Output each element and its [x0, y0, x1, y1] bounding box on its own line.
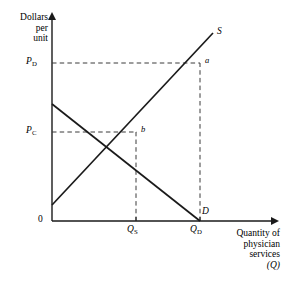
x-tick-sub-qd: D	[197, 228, 202, 235]
supply-curve	[52, 33, 213, 205]
x-tick-sub-qs: S	[134, 228, 138, 235]
x-axis-label-line-4: (Q)	[267, 260, 280, 270]
demand-curve-label: D	[202, 206, 209, 217]
demand-curve	[52, 104, 200, 221]
y-axis-label-line-1: Dollars	[20, 12, 48, 22]
y-tick-sub-pd: D	[32, 60, 37, 67]
supply-curve-label: S	[217, 26, 222, 37]
chart-figure: Dollarsperunit Quantity ofphysicianservi…	[0, 0, 285, 287]
y-tick-sub-pc: C	[32, 129, 37, 136]
y-tick-label-price-demanders: PD	[26, 56, 37, 67]
x-tick-label-quantity-supplied: QS	[127, 224, 138, 235]
x-tick-base-qs: Q	[127, 224, 134, 234]
point-b-label: b	[141, 125, 145, 135]
y-tick-base-pd: P	[26, 56, 32, 66]
x-axis-label-line-1: Quantity of	[236, 228, 280, 238]
x-axis-label-line-3: services	[249, 249, 280, 259]
y-tick-label-price-suppliers: PC	[26, 125, 36, 136]
y-tick-base-pc: P	[26, 125, 32, 135]
y-axis-label-line-3: unit	[33, 33, 48, 43]
y-axis-label: Dollarsperunit	[8, 12, 48, 44]
x-axis-label: Quantity ofphysicianservices(Q)	[196, 228, 280, 271]
x-tick-base-qd: Q	[190, 224, 197, 234]
y-axis-label-line-2: per	[36, 23, 48, 33]
x-tick-label-quantity-demanded: QD	[190, 224, 202, 235]
point-a-label: a	[205, 56, 209, 66]
origin-label: 0	[38, 214, 43, 225]
x-axis-label-line-2: physician	[244, 239, 280, 249]
